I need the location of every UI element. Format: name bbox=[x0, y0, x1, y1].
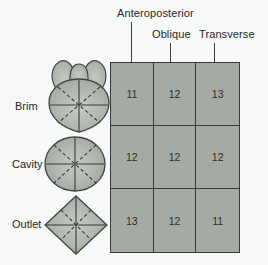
column-label-transverse: Transverse bbox=[199, 28, 255, 40]
connector-line-anteroposterior bbox=[131, 22, 132, 62]
table-cell-cavity-oblique: 12 bbox=[154, 126, 197, 189]
connector-line-transverse bbox=[214, 43, 215, 62]
table-cell-outlet-anteroposterior: 13 bbox=[111, 189, 154, 252]
pelvic-diameters-diagram: Anteroposterior Oblique Transverse Brim … bbox=[0, 0, 268, 265]
cavity-shape-icon bbox=[43, 135, 107, 193]
row-label-cavity: Cavity bbox=[12, 158, 43, 170]
table-cell-outlet-oblique: 12 bbox=[154, 189, 197, 252]
table-cell-cavity-anteroposterior: 12 bbox=[111, 126, 154, 189]
outlet-shape-icon bbox=[43, 194, 109, 256]
table-cell-cavity-transverse: 12 bbox=[196, 126, 239, 189]
table-cell-brim-transverse: 13 bbox=[196, 63, 239, 126]
column-label-oblique: Oblique bbox=[152, 28, 191, 40]
row-label-brim: Brim bbox=[15, 100, 38, 112]
connector-line-oblique bbox=[170, 43, 171, 62]
column-label-anteroposterior: Anteroposterior bbox=[117, 7, 194, 19]
table-cell-brim-anteroposterior: 11 bbox=[111, 63, 154, 126]
row-label-outlet: Outlet bbox=[12, 218, 41, 230]
table-cell-brim-oblique: 12 bbox=[154, 63, 197, 126]
diameters-table: 11 12 13 12 12 12 13 12 11 bbox=[110, 62, 240, 253]
brim-shape-icon bbox=[44, 54, 114, 134]
table-cell-outlet-transverse: 11 bbox=[196, 189, 239, 252]
